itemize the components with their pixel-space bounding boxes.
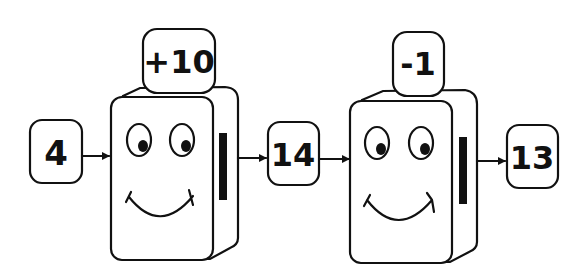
output-1-box: 14 bbox=[268, 122, 319, 185]
machine-2-slot-icon bbox=[459, 137, 467, 204]
machine-2-operation-box: -1 bbox=[393, 32, 444, 96]
machine-2-front-face bbox=[350, 101, 452, 263]
function-machine-diagram: 4 +10 14 bbox=[0, 0, 584, 279]
machine-1: +10 bbox=[111, 29, 238, 260]
output-1-value: 14 bbox=[271, 136, 316, 174]
output-2-box: 13 bbox=[507, 125, 558, 188]
machine-1-operation-box: +10 bbox=[143, 29, 215, 93]
machine-1-operation: +10 bbox=[143, 43, 214, 81]
output-2-value: 13 bbox=[510, 139, 555, 177]
machine-1-slot-icon bbox=[219, 133, 227, 200]
machine-2: -1 bbox=[350, 32, 477, 263]
input-box: 4 bbox=[30, 120, 82, 183]
input-value: 4 bbox=[44, 133, 68, 173]
machine-2-operation: -1 bbox=[400, 45, 436, 83]
machine-1-front-face bbox=[111, 97, 213, 260]
